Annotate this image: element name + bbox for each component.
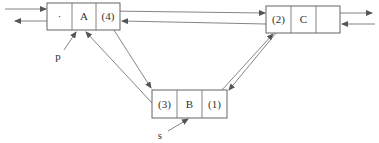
node-b-data-cell: B xyxy=(186,98,193,110)
pointer-s-arrow xyxy=(168,119,188,131)
link-2-arrow xyxy=(229,27,281,90)
node-b-prior-cell: (3) xyxy=(158,98,171,111)
node-b-next-cell: (1) xyxy=(208,98,221,111)
node-a-data-cell: A xyxy=(80,10,88,22)
node-a: · A (4) xyxy=(47,3,120,30)
a-c-links xyxy=(109,11,266,24)
linked-list-diagram: · A (4) (2) C (3) B (1) p s xyxy=(0,0,379,143)
node-b: (3) B (1) xyxy=(152,90,227,118)
a-next-to-c-arrow xyxy=(109,11,265,13)
node-a-next-cell: (4) xyxy=(102,10,115,23)
pointer-p-label: p xyxy=(55,50,61,62)
link-3-arrow xyxy=(86,32,153,104)
pointer-s: s xyxy=(158,119,188,141)
node-a-prior-cell: · xyxy=(58,10,62,22)
c-prior-to-a-arrow xyxy=(122,21,266,24)
node-c-prior-cell: (2) xyxy=(272,13,285,26)
node-c: (2) C xyxy=(266,6,340,33)
link-4-arrow xyxy=(112,27,151,88)
pointer-s-label: s xyxy=(158,129,162,141)
node-c-data-cell: C xyxy=(300,13,307,25)
pointer-p-arrow xyxy=(64,32,76,50)
pointer-p: p xyxy=(55,32,76,62)
external-links-left xyxy=(5,9,47,21)
